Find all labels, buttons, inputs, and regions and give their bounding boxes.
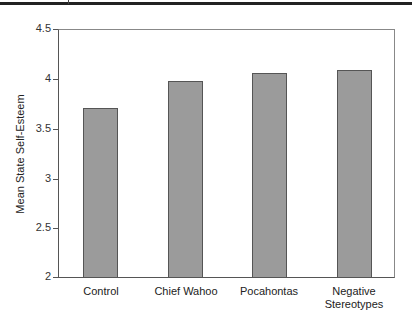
y-tick-2.5 <box>53 228 58 229</box>
y-tick-4.5 <box>53 29 58 30</box>
bar-negative-stereotypes <box>337 70 372 278</box>
top-rule <box>0 2 412 5</box>
y-axis-title: Mean State Self-Esteem <box>14 94 26 214</box>
bar-pocahontas <box>252 73 287 278</box>
y-tick-3 <box>53 179 58 180</box>
y-label-2.5: 2.5 <box>36 222 51 233</box>
x-label-control: Control <box>56 285 146 298</box>
y-label-3.5: 3.5 <box>36 123 51 134</box>
x-label-pocahontas: Pocahontas <box>224 285 314 298</box>
y-label-4.5: 4.5 <box>36 23 51 34</box>
x-label-negative-line2: Stereotypes <box>309 298 399 311</box>
y-tick-2 <box>53 277 58 278</box>
y-label-4: 4 <box>45 73 51 84</box>
y-label-2: 2 <box>45 271 51 282</box>
bar-chief-wahoo <box>168 81 203 278</box>
x-label-negative-line1: Negative <box>309 285 399 298</box>
bar-control <box>83 108 118 278</box>
x-label-chief-wahoo: Chief Wahoo <box>141 285 231 298</box>
y-tick-4 <box>53 79 58 80</box>
x-label-negative-stereotypes: Negative Stereotypes <box>309 285 399 311</box>
y-label-3: 3 <box>45 173 51 184</box>
top-rule-stub <box>68 0 69 4</box>
y-tick-3.5 <box>53 129 58 130</box>
